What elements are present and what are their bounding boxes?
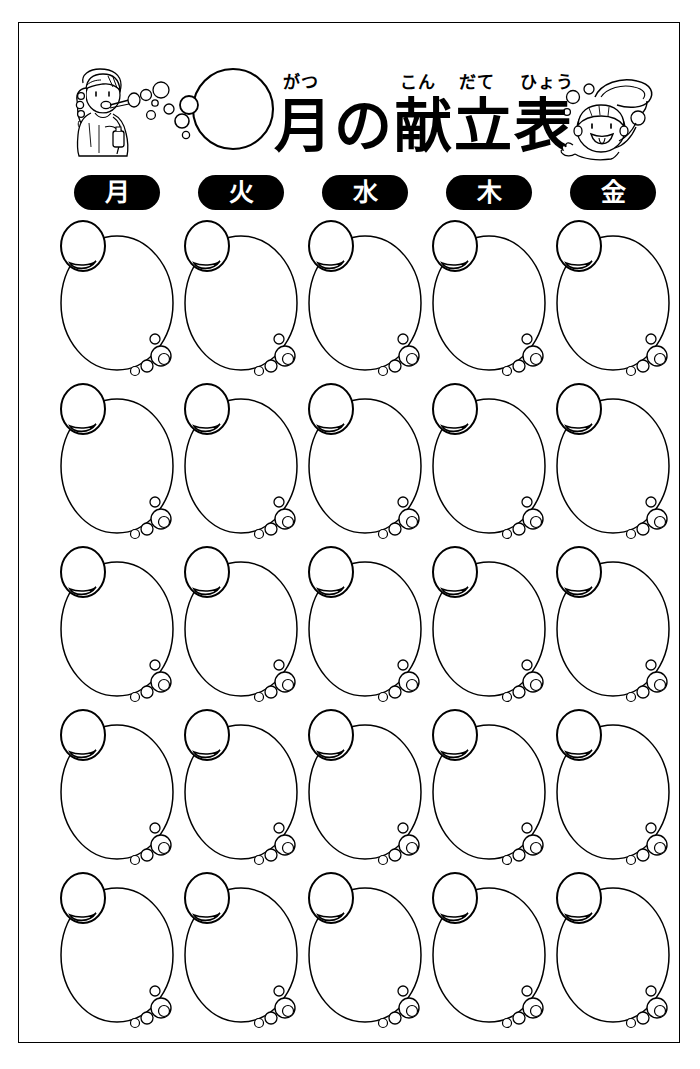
menu-cell-r1-c1[interactable] — [55, 219, 179, 382]
menu-cell-text — [317, 583, 413, 675]
menu-cell-text — [441, 909, 537, 1001]
menu-cell-text — [565, 420, 661, 512]
furigana-gatsu: がつ — [283, 71, 319, 93]
girl-blowing-bubbles-icon — [53, 65, 175, 157]
menu-cell-r3-c4[interactable] — [427, 545, 551, 708]
menu-cell-text — [317, 909, 413, 1001]
menu-cell-text — [565, 583, 661, 675]
menu-cell-r5-c4[interactable] — [427, 871, 551, 1034]
menu-cell-r5-c5[interactable] — [551, 871, 675, 1034]
menu-cell-text — [441, 583, 537, 675]
menu-cell-text — [69, 909, 165, 1001]
menu-cell-text — [193, 420, 289, 512]
menu-cell-text — [193, 583, 289, 675]
menu-cell-r2-c5[interactable] — [551, 382, 675, 545]
menu-cell-r4-c4[interactable] — [427, 708, 551, 871]
menu-cell-text — [69, 746, 165, 838]
menu-cell-text — [317, 420, 413, 512]
menu-cell-r3-c3[interactable] — [303, 545, 427, 708]
menu-cell-text — [193, 746, 289, 838]
menu-cell-r5-c2[interactable] — [179, 871, 303, 1034]
menu-cell-text — [441, 420, 537, 512]
menu-cell-text — [441, 746, 537, 838]
menu-cell-text — [193, 257, 289, 349]
menu-cell-r1-c5[interactable] — [551, 219, 675, 382]
menu-cell-text — [565, 257, 661, 349]
month-number-circle-icon[interactable] — [171, 55, 279, 163]
menu-cell-text — [317, 257, 413, 349]
furigana-date: だて — [459, 71, 495, 93]
menu-cell-r2-c2[interactable] — [179, 382, 303, 545]
menu-cell-text — [317, 746, 413, 838]
menu-cell-r4-c3[interactable] — [303, 708, 427, 871]
menu-cell-r4-c2[interactable] — [179, 708, 303, 871]
menu-cell-r3-c5[interactable] — [551, 545, 675, 708]
menu-grid — [19, 219, 681, 1039]
menu-cell-r5-c1[interactable] — [55, 871, 179, 1034]
menu-cell-r3-c2[interactable] — [179, 545, 303, 708]
menu-cell-r4-c5[interactable] — [551, 708, 675, 871]
menu-cell-text — [69, 420, 165, 512]
day-pill-wednesday[interactable]: 水 — [322, 175, 408, 210]
menu-cell-r4-c1[interactable] — [55, 708, 179, 871]
menu-cell-text — [193, 909, 289, 1001]
furigana-kon: こん — [400, 71, 436, 93]
menu-cell-text — [69, 257, 165, 349]
header: がつ こん だて ひょう 月の献立表 — [19, 23, 681, 163]
menu-cell-r1-c3[interactable] — [303, 219, 427, 382]
menu-cell-r3-c1[interactable] — [55, 545, 179, 708]
day-pill-tuesday[interactable]: 火 — [198, 175, 284, 210]
menu-cell-text — [565, 746, 661, 838]
menu-cell-text — [565, 909, 661, 1001]
title-text: 月の献立表 — [274, 91, 574, 161]
menu-cell-text — [441, 257, 537, 349]
day-pill-friday[interactable]: 金 — [570, 175, 656, 210]
day-pill-monday[interactable]: 月 — [74, 175, 160, 210]
menu-cell-r2-c4[interactable] — [427, 382, 551, 545]
weekday-header-row: 月 火 水 木 金 — [19, 175, 681, 215]
worksheet-page: がつ こん だて ひょう 月の献立表 — [18, 22, 680, 1043]
menu-cell-r5-c3[interactable] — [303, 871, 427, 1034]
menu-cell-r2-c1[interactable] — [55, 382, 179, 545]
menu-cell-r1-c4[interactable] — [427, 219, 551, 382]
menu-cell-r2-c3[interactable] — [303, 382, 427, 545]
boy-with-bubble-wand-icon — [559, 75, 677, 163]
day-pill-thursday[interactable]: 木 — [446, 175, 532, 210]
menu-cell-text — [69, 583, 165, 675]
month-value — [193, 75, 273, 143]
page-title: がつ こん だて ひょう 月の献立表 — [274, 71, 594, 165]
menu-cell-r1-c2[interactable] — [179, 219, 303, 382]
